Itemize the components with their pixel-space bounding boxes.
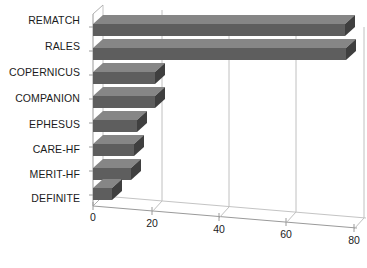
plot-area <box>0 0 367 268</box>
x-tick-label-80: 80 <box>342 234 366 246</box>
bar-copernicus <box>93 63 165 84</box>
x-tick-label-60: 60 <box>274 228 298 240</box>
bar-chart: REMATCH RALES COPERNICUS COMPANION EPHES… <box>0 0 367 268</box>
bar-care-hf <box>93 135 144 156</box>
bar-ephesus <box>93 111 147 132</box>
x-tick-label-20: 20 <box>140 217 164 229</box>
x-tick-label-0: 0 <box>84 211 102 223</box>
x-tick-label-40: 40 <box>207 223 231 235</box>
bar-rales <box>93 39 356 60</box>
bar-merit-hf <box>93 159 141 180</box>
bar-companion <box>93 87 165 108</box>
bar-rematch <box>93 15 355 36</box>
category-axis-ticks <box>89 27 93 195</box>
